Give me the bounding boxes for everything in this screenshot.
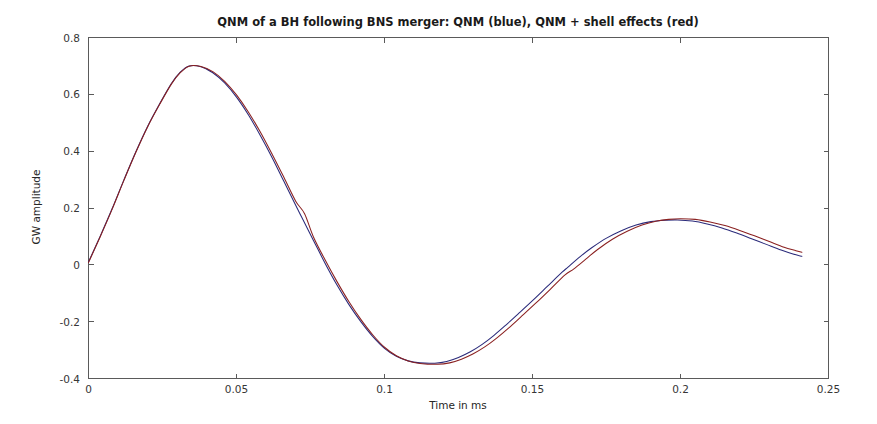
data-series-group xyxy=(89,65,802,364)
x-tick-label: 0.15 xyxy=(521,383,544,395)
series-line-qnm-shell-effects xyxy=(89,66,802,365)
chart-title: QNM of a BH following BNS merger: QNM (b… xyxy=(217,15,698,29)
x-tick-label: 0 xyxy=(85,383,92,395)
x-tick-label: 0.25 xyxy=(817,383,840,395)
series-line-qnm xyxy=(89,65,802,363)
y-tick-label: 0.8 xyxy=(63,32,80,44)
y-tick-labels-group: -0.4-0.200.20.40.60.8 xyxy=(60,32,81,385)
x-axis-label: Time in ms xyxy=(428,399,487,411)
x-tick-label: 0.05 xyxy=(225,383,248,395)
y-tick-label: 0 xyxy=(73,259,80,271)
y-tick-label: 0.4 xyxy=(63,145,80,157)
y-tick-label: -0.4 xyxy=(60,373,81,385)
tick-marks-group xyxy=(89,38,829,379)
y-axis-label: GW amplitude xyxy=(30,170,42,245)
y-tick-label: 0.6 xyxy=(63,88,80,100)
y-tick-label: 0.2 xyxy=(63,202,80,214)
x-tick-labels-group: 00.050.10.150.20.25 xyxy=(85,383,840,395)
plot-area: QNM of a BH following BNS merger: QNM (b… xyxy=(0,0,877,424)
x-tick-label: 0.2 xyxy=(672,383,689,395)
y-tick-label: -0.2 xyxy=(60,316,81,328)
x-tick-label: 0.1 xyxy=(376,383,393,395)
figure-canvas: QNM of a BH following BNS merger: QNM (b… xyxy=(0,0,877,424)
axes-frame xyxy=(89,38,829,379)
